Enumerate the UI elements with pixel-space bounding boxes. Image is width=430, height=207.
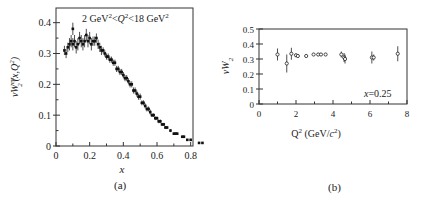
svg-text:0.1: 0.1 (243, 85, 254, 95)
figure-canvas: 00.20.40.60.800.10.20.30.4 2 GeV2<Q2<18 … (0, 0, 430, 207)
axis-ticks-b: 0246800.10.20.30.40.5 (243, 25, 410, 120)
chart-panel-b: 0246800.10.20.30.40.5 x=0.25 Q2 (GeV/c2)… (220, 25, 410, 141)
svg-text:0.5: 0.5 (243, 25, 255, 35)
svg-text:0.3: 0.3 (243, 55, 255, 65)
svg-text:0: 0 (54, 150, 59, 161)
svg-text:0.4: 0.4 (117, 150, 130, 161)
data-points-a (63, 23, 204, 145)
svg-text:0: 0 (46, 141, 51, 152)
x-axis-label-a: x (119, 163, 125, 175)
svg-text:0.4: 0.4 (39, 17, 52, 28)
svg-text:0.2: 0.2 (243, 70, 254, 80)
svg-text:8: 8 (405, 109, 410, 119)
svg-text:4: 4 (331, 109, 336, 119)
range-annotation: 2 GeV2<Q2<18 GeV2 (82, 12, 169, 24)
x-axis-label-b: Q2 (GeV/c2) (291, 127, 341, 140)
svg-text:0.2: 0.2 (83, 150, 96, 161)
x-value-annotation: x=0.25 (363, 88, 392, 99)
caption-a: (a) (114, 179, 126, 191)
svg-text:0: 0 (250, 100, 255, 110)
data-points-b (276, 46, 399, 72)
svg-text:0.8: 0.8 (184, 150, 197, 161)
svg-text:0.1: 0.1 (39, 110, 52, 121)
svg-text:0.4: 0.4 (243, 40, 255, 50)
y-axis-label-a: νWep2(x,Q2) (8, 56, 24, 97)
svg-text:0.2: 0.2 (39, 79, 52, 90)
svg-text:6: 6 (368, 109, 373, 119)
svg-text:0.6: 0.6 (151, 150, 164, 161)
y-axis-label-b: νW2 (220, 57, 235, 74)
chart-panel-a: 00.20.40.60.800.10.20.30.4 2 GeV2<Q2<18 … (8, 8, 204, 175)
svg-text:2: 2 (294, 109, 299, 119)
axis-ticks-a: 00.20.40.60.800.10.20.30.4 (39, 17, 197, 161)
caption-b: (b) (328, 181, 341, 193)
svg-text:0: 0 (257, 109, 262, 119)
svg-text:0.3: 0.3 (39, 48, 52, 59)
